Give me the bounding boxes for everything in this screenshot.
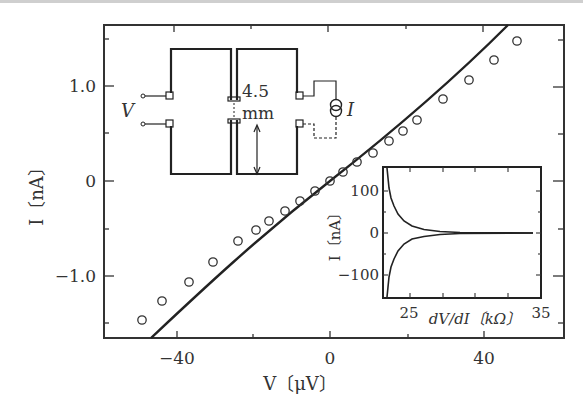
inset-x-tick-label: 25 [399, 304, 418, 322]
x-tick-label: 0 [325, 348, 336, 368]
x-tick-label: −40 [159, 348, 195, 368]
y-axis-label: I〔nA〕 [26, 158, 47, 226]
inset-y-tick-label: −100 [338, 266, 379, 284]
iv-chart: −40 0 40 1.0 0 −1.0 V〔μV〕 I〔nA〕 [0, 0, 583, 409]
x-axis-label: V〔μV〕 [262, 373, 337, 394]
y-tick-label: 1.0 [69, 76, 96, 96]
x-tick-label: 40 [473, 348, 495, 368]
inset-x-axis-label: dV/dI〔kΩ〕 [429, 310, 522, 328]
y-tick-label: 0 [85, 171, 96, 191]
y-tick-label: −1.0 [55, 266, 96, 286]
inset-y-axis-label: I〔nA〕 [326, 205, 344, 261]
inset-x-tick-label: 35 [531, 304, 550, 322]
diagram-voltage-label: V [121, 100, 136, 121]
inset-y-tick-label: 100 [350, 182, 379, 200]
diagram-dimension-value: 4.5 [242, 81, 269, 101]
diagram-dimension-unit: mm [242, 103, 274, 123]
diagram-current-label: I [346, 99, 355, 120]
inset-y-tick-label: 0 [369, 224, 379, 242]
inset-chart [383, 167, 541, 298]
